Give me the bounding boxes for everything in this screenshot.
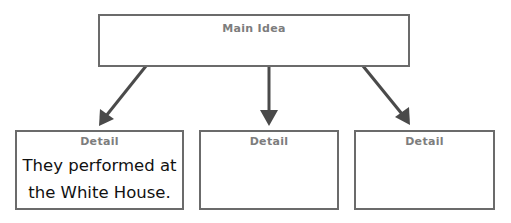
main-idea-box[interactable]: Main Idea xyxy=(98,14,410,67)
detail-label: Detail xyxy=(356,135,493,148)
detail-box-3[interactable]: Detail xyxy=(354,130,495,210)
arrow-to-detail-1 xyxy=(99,66,146,126)
detail-label: Detail xyxy=(201,135,337,148)
detail-text-line: They performed at xyxy=(17,152,182,179)
detail-label: Detail xyxy=(17,135,182,148)
detail-text-line: the White House. xyxy=(17,179,182,206)
arrow-to-detail-3 xyxy=(363,66,410,125)
detail-box-2[interactable]: Detail xyxy=(199,130,339,210)
detail-box-1[interactable]: Detail They performed at the White House… xyxy=(15,130,184,210)
arrow-to-detail-2 xyxy=(260,66,278,126)
main-idea-label: Main Idea xyxy=(100,22,408,35)
detail-text: They performed at the White House. xyxy=(17,152,182,206)
